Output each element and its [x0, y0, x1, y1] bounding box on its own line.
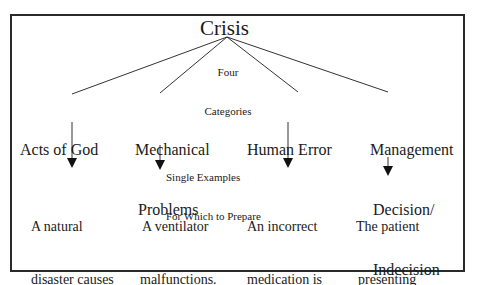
example-line: disaster causes	[31, 271, 116, 285]
category-acts-of-god: Acts of God	[20, 100, 98, 180]
example-line: An incorrect	[247, 218, 323, 236]
category-label: Management	[370, 140, 454, 160]
example-line: A natural	[31, 218, 116, 236]
example-line: medication is	[247, 271, 323, 285]
subtitle-line: Four	[203, 66, 253, 79]
diagram-title: Crisis	[200, 18, 249, 39]
example-mechanical: A ventilator malfunctions.	[140, 183, 217, 285]
example-acts-of-god: A natural disaster causes the hospital t…	[31, 183, 116, 285]
example-line: The patient	[356, 218, 437, 236]
example-line: presenting	[356, 271, 437, 285]
example-management: The patient presenting with shortness of…	[356, 183, 437, 285]
example-human-error: An incorrect medication is administered.	[247, 183, 323, 285]
example-line: A ventilator	[140, 218, 217, 236]
category-label: Acts of God	[20, 140, 98, 160]
four-categories-label: Four Categories	[203, 40, 253, 131]
subtitle-line: Categories	[203, 105, 253, 118]
example-line: malfunctions.	[140, 271, 217, 285]
